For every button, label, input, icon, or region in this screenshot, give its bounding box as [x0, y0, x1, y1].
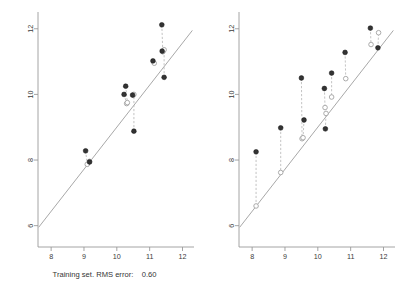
training-x-tick-label: 11 — [146, 252, 153, 260]
training-x-tick-label: 8 — [49, 252, 53, 260]
test-observed-point — [323, 126, 328, 131]
training-x-tick-label: 12 — [179, 252, 187, 260]
panel-training: 68101289101112 Training set. RMS error: … — [0, 0, 201, 282]
training-observed-point — [122, 92, 127, 97]
test-scatter-plot: 68101289101112 — [201, 0, 402, 260]
training-observed-point — [131, 129, 136, 134]
test-fitted-point — [329, 95, 334, 100]
test-fitted-point — [278, 170, 283, 175]
training-x-tick-label: 9 — [82, 252, 86, 260]
training-regression-line — [39, 30, 193, 227]
training-observed-point — [159, 22, 164, 27]
training-observed-point — [130, 93, 135, 98]
test-fitted-point — [324, 111, 329, 116]
training-observed-point — [87, 160, 92, 165]
test-observed-point — [302, 118, 307, 123]
training-y-tick-label: 10 — [27, 90, 36, 98]
test-fitted-point — [301, 135, 306, 140]
training-observed-point — [160, 49, 165, 54]
panel-test: 68101289101112 Test set. RMS error: 0.96 — [201, 0, 402, 282]
test-residual-line — [345, 52, 346, 78]
test-observed-point — [376, 45, 381, 50]
training-y-tick-label: 6 — [27, 224, 36, 228]
test-fitted-point — [376, 30, 381, 35]
figure-root: 68101289101112 Training set. RMS error: … — [0, 0, 402, 282]
test-x-tick-label: 10 — [314, 252, 322, 260]
test-fitted-point — [343, 76, 348, 81]
test-residual-line — [301, 78, 302, 139]
test-y-tick-label: 6 — [228, 224, 237, 228]
training-observed-point — [151, 59, 156, 64]
test-x-tick-label: 8 — [250, 252, 254, 260]
test-fitted-point — [254, 204, 259, 209]
training-rms-value: 0.60 — [142, 270, 157, 279]
test-residual-line — [324, 88, 325, 107]
test-x-tick-label: 11 — [347, 252, 354, 260]
test-y-tick-label: 8 — [228, 158, 237, 162]
test-y-tick-label: 10 — [228, 90, 237, 98]
training-y-tick-label: 12 — [27, 25, 36, 33]
training-caption: Training set. RMS error: 0.60 — [40, 261, 157, 282]
test-observed-point — [278, 125, 283, 130]
training-y-tick-label: 8 — [27, 158, 36, 162]
training-fitted-point — [125, 100, 130, 105]
test-x-tick-label: 12 — [380, 252, 388, 260]
training-observed-point — [83, 148, 88, 153]
training-observed-point — [123, 84, 128, 89]
test-regression-line — [240, 30, 394, 227]
training-caption-label: Training set. RMS error: — [53, 270, 134, 279]
test-x-tick-label: 9 — [283, 252, 287, 260]
test-observed-point — [299, 76, 304, 81]
test-observed-point — [322, 86, 327, 91]
training-x-tick-label: 10 — [113, 252, 121, 260]
test-y-tick-label: 12 — [228, 25, 237, 33]
test-observed-point — [254, 149, 259, 154]
test-fitted-point — [369, 42, 374, 47]
test-observed-point — [329, 71, 334, 76]
test-fitted-point — [323, 105, 328, 110]
training-observed-point — [162, 75, 167, 80]
test-observed-point — [343, 50, 348, 55]
training-scatter-plot: 68101289101112 — [0, 0, 201, 260]
test-observed-point — [368, 26, 373, 31]
